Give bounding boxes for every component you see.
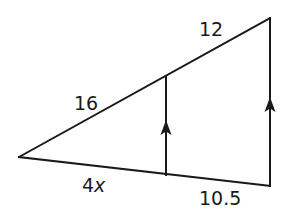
label-variable: x xyxy=(93,174,106,196)
triangle-proportion-diagram: 16 12 4x 10.5 xyxy=(0,0,289,217)
label-upper-right-segment: 12 xyxy=(199,18,223,40)
label-upper-left-segment: 16 xyxy=(74,92,98,114)
lower-side xyxy=(19,157,270,186)
label-lower-left-segment: 4x xyxy=(82,174,106,196)
upper-side xyxy=(19,18,270,157)
label-coefficient: 4 xyxy=(82,174,94,196)
label-lower-right-segment: 10.5 xyxy=(199,187,241,209)
